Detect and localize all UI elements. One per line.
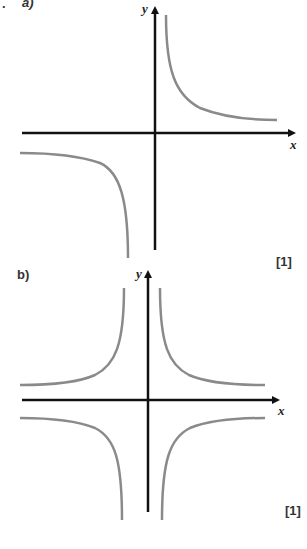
graph-b-y-label: y — [136, 266, 142, 282]
graph-a-x-label: x — [290, 137, 297, 153]
graph-a-curve-q3 — [20, 153, 128, 258]
graph-a-curve-q1 — [166, 15, 277, 120]
graph-b-x-label: x — [278, 403, 285, 419]
part-b-label: b) — [17, 267, 29, 282]
graph-b — [20, 274, 276, 520]
graph-b-curve-q2 — [20, 288, 124, 385]
graph-b-curve-q4 — [162, 418, 265, 520]
graph-b-curve-q3 — [20, 418, 122, 520]
graph-a — [20, 10, 292, 258]
graph-a-marks: [1] — [276, 254, 292, 269]
graph-b-curve-q1 — [160, 288, 265, 385]
graph-a-y-label: y — [142, 1, 148, 17]
graphs-canvas — [0, 0, 307, 549]
graph-b-marks: [1] — [285, 503, 301, 518]
